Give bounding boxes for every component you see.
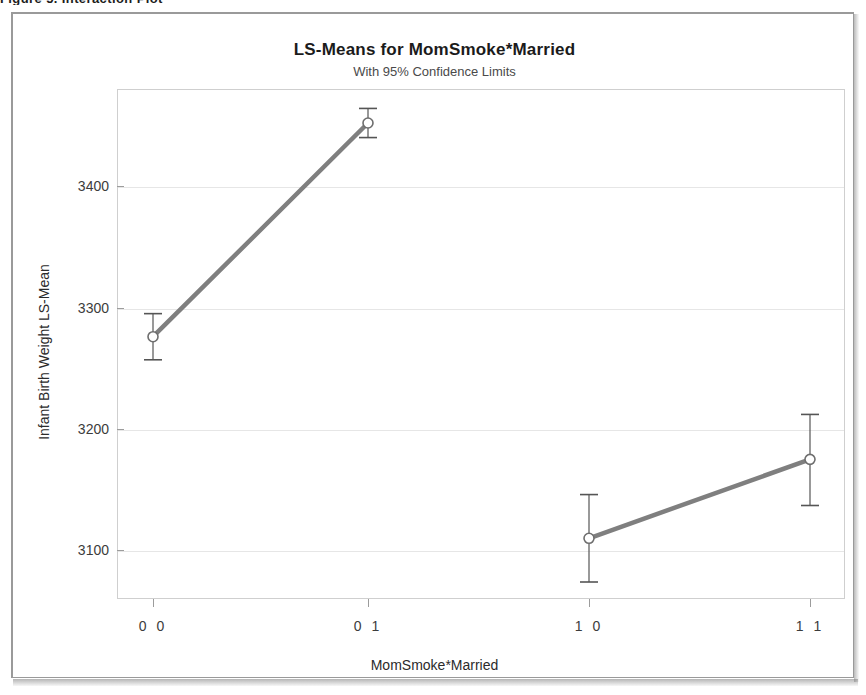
data-point-group bbox=[359, 108, 377, 137]
x-axis-tick-mark bbox=[153, 599, 154, 607]
page-top-caption-sliver: Figure 5. Interaction Plot bbox=[0, 0, 430, 5]
figure-frame: LS-Means for MomSmoke*Married With 95% C… bbox=[11, 12, 854, 678]
y-axis-tick-mark bbox=[117, 429, 124, 430]
y-axis-tick-mark bbox=[117, 186, 124, 187]
series-line bbox=[153, 123, 368, 337]
x-axis-tick-mark bbox=[368, 599, 369, 607]
data-point-marker bbox=[148, 332, 158, 342]
figure-frame-shadow-bottom bbox=[13, 679, 858, 686]
x-axis-tick-label: 0 1 bbox=[328, 618, 408, 634]
x-axis-tick-label: 1 0 bbox=[549, 618, 629, 634]
series-line bbox=[589, 459, 810, 538]
data-point-marker bbox=[363, 118, 373, 128]
y-axis-tick-mark bbox=[117, 550, 124, 551]
x-axis-tick-label: 1 1 bbox=[770, 618, 850, 634]
x-axis-tick-mark bbox=[589, 599, 590, 607]
data-point-marker bbox=[805, 454, 815, 464]
data-point-group bbox=[144, 314, 162, 360]
y-axis-tick-mark bbox=[117, 308, 124, 309]
x-axis-tick-label: 0 0 bbox=[113, 618, 193, 634]
data-point-marker bbox=[584, 533, 594, 543]
x-axis-tick-mark bbox=[810, 599, 811, 607]
chart-data-layer bbox=[13, 14, 856, 680]
